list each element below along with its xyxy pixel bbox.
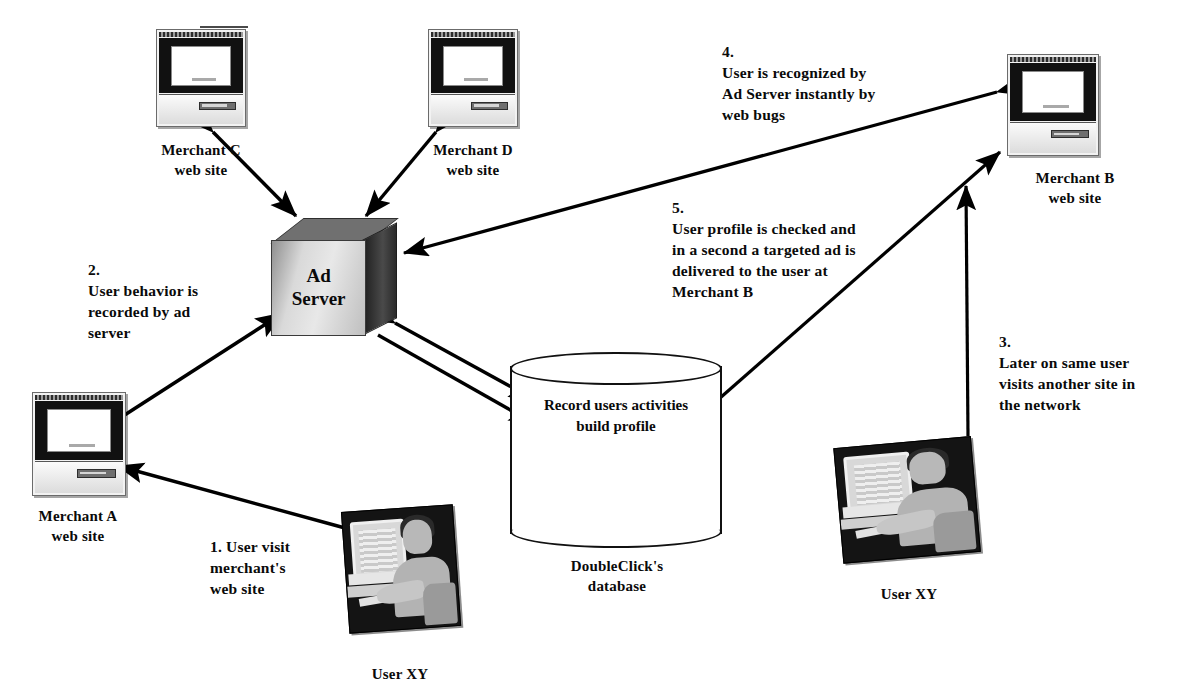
step-3-label: 3. Later on same user visits another sit… (999, 332, 1179, 416)
merchant-b-label: Merchant B web site (1000, 168, 1150, 209)
step-1-label: 1. User visit merchant's web site (210, 537, 345, 600)
user-left-photo (341, 504, 459, 631)
arrow-user-right-merchant-b (966, 186, 968, 436)
ad-server-cube-icon: Ad Server (271, 218, 397, 336)
diagram-canvas: Merchant C web site Merchant D web site … (0, 0, 1195, 697)
merchant-c-label: Merchant C web site (130, 140, 272, 181)
merchant-b-computer-icon (1007, 54, 1097, 154)
ad-server-label: Ad Server (292, 265, 346, 311)
arrow-user-left-merchant-a (118, 466, 345, 528)
step-2-label: 2. User behavior is recorded by ad serve… (88, 260, 248, 344)
user-right-label: User XY (846, 584, 972, 604)
merchant-d-computer-icon (428, 29, 516, 125)
scan-artifact-line (200, 26, 248, 28)
step-4-label: 4. User is recognized by Ad Server insta… (722, 42, 937, 126)
step-5-label: 5. User profile is checked and in a seco… (672, 198, 907, 303)
database-cylinder-icon: Record users activities build profile (510, 352, 722, 548)
user-left-label: User XY (340, 664, 460, 684)
merchant-d-label: Merchant D web site (402, 140, 544, 181)
merchant-a-computer-icon (32, 392, 124, 494)
merchant-a-label: Merchant A web site (8, 506, 148, 547)
user-right-photo (833, 436, 978, 561)
database-inner-label: Record users activities build profile (518, 395, 713, 437)
database-caption: DoubleClick's database (532, 556, 702, 597)
merchant-c-computer-icon (156, 29, 244, 125)
